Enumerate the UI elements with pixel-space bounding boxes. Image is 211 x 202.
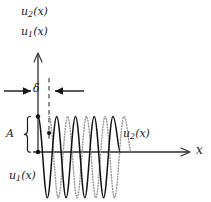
label-u1-curve: u1(x) bbox=[9, 170, 36, 183]
curve-u1 bbox=[38, 117, 120, 198]
label-u1-top-arg: (x) bbox=[33, 25, 48, 38]
x-axis-label: x bbox=[196, 144, 203, 156]
label-u2-top: u2(x) bbox=[21, 6, 48, 19]
amplitude-brace bbox=[24, 117, 30, 153]
label-u2-curve-arg: (x) bbox=[135, 127, 150, 140]
label-u1-curve-arg: (x) bbox=[21, 169, 36, 182]
label-u2-top-arg: (x) bbox=[33, 5, 48, 18]
label-u2-curve: u2(x) bbox=[123, 128, 150, 141]
phase-shift-label: δ bbox=[33, 83, 40, 94]
amplitude-label: A bbox=[6, 128, 14, 139]
wave-phase-shift-figure: u2(x) u1(x) u2(x) u1(x) x A δ bbox=[0, 0, 211, 202]
label-u1-top: u1(x) bbox=[21, 26, 48, 39]
